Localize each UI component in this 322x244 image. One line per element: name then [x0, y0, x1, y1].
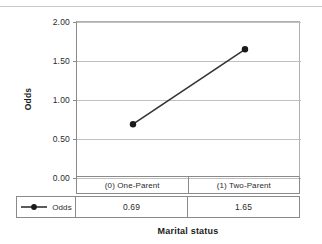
- y-tick-label: 1.50: [53, 56, 70, 66]
- series-odds: [77, 22, 301, 178]
- data-value-cell: 0.69: [76, 197, 187, 217]
- y-tick-label: 1.00: [53, 95, 70, 105]
- data-point-marker: [130, 121, 136, 127]
- legend-label: Odds: [52, 203, 72, 212]
- y-axis-title: Odds: [23, 88, 33, 111]
- plot-area: 2.001.501.000.500.00: [76, 21, 300, 177]
- series-line: [133, 49, 245, 124]
- data-point-marker: [242, 46, 248, 52]
- y-tick-label: 0.00: [53, 173, 70, 183]
- category-cell: (0) One-Parent: [77, 177, 188, 193]
- y-tick-label: 2.00: [53, 17, 70, 27]
- legend-line-marker-icon: [20, 202, 48, 212]
- category-header-row: (0) One-Parent (1) Two-Parent: [76, 177, 300, 194]
- chart-figure: Odds 2.001.501.000.500.00 (0) One-Parent…: [0, 0, 322, 244]
- category-cell: (1) Two-Parent: [188, 177, 300, 193]
- legend-entry-odds: Odds: [17, 197, 76, 217]
- top-divider: [0, 6, 322, 7]
- y-tick-label: 0.50: [53, 134, 70, 144]
- data-table-row: Odds 0.69 1.65: [16, 196, 300, 218]
- x-axis-title: Marital status: [76, 226, 300, 236]
- data-value-cell: 1.65: [187, 197, 299, 217]
